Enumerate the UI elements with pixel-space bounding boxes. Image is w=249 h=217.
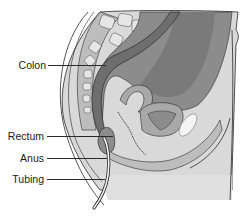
pelvis-cross-section-diagram: Colon Rectum Anus Tubing	[0, 0, 249, 217]
leader-line-tubing	[47, 179, 105, 180]
thigh-region	[100, 175, 232, 200]
label-colon: Colon	[19, 59, 46, 71]
label-rectum: Rectum	[8, 130, 44, 142]
label-tubing: Tubing	[12, 173, 44, 185]
leader-line-anus	[47, 158, 107, 159]
leader-line-rectum	[47, 136, 113, 137]
leader-line-colon	[48, 65, 106, 66]
label-anus: Anus	[20, 152, 44, 164]
